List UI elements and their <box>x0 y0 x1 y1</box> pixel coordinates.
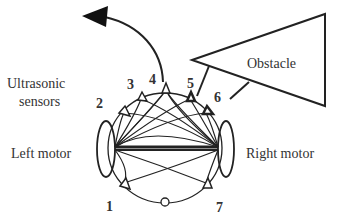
robot-sensor-diagram: Ultrasonic sensors Left motor Right moto… <box>0 0 339 222</box>
sensor-1-icon <box>120 178 130 189</box>
arrow-head-icon <box>82 6 108 27</box>
sensor-2-label: 2 <box>96 96 103 111</box>
sensor-7-icon <box>203 178 212 188</box>
sensor-2-icon <box>119 106 130 116</box>
turn-arrow <box>82 6 163 82</box>
sensor-4-icon <box>162 83 170 93</box>
sensor-7-label: 7 <box>216 200 223 215</box>
sensor-5-label: 5 <box>187 76 194 91</box>
left-motor-label: Left motor <box>11 146 72 161</box>
sensor-5-beam <box>197 66 209 96</box>
ultrasonic-label-line1: Ultrasonic <box>7 76 65 91</box>
caster-wheel <box>161 198 169 206</box>
sensor-3-label: 3 <box>127 77 134 92</box>
sensor-6-label: 6 <box>214 90 221 105</box>
sensor-6-icon <box>203 106 213 114</box>
right-motor-wheel <box>218 121 234 177</box>
right-motor-label: Right motor <box>246 146 314 161</box>
ultrasonic-label-line2: sensors <box>19 94 60 109</box>
sensor-4-label: 4 <box>149 72 156 87</box>
sensor-6-beam <box>230 82 249 99</box>
left-motor-wheel <box>97 121 115 177</box>
sensor-5-icon <box>187 92 195 101</box>
obstacle-label: Obstacle <box>247 56 296 71</box>
sensor-1-label: 1 <box>106 199 113 214</box>
